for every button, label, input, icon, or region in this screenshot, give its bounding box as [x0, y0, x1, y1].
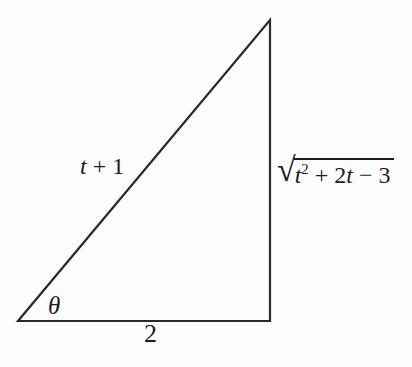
base-label: 2 — [144, 321, 157, 347]
angle-theta-label: θ — [48, 293, 60, 318]
figure-canvas: t + 1 √ t2 + 2t − 3 θ 2 — [0, 0, 412, 367]
hypotenuse-label: t + 1 — [80, 154, 124, 178]
vertical-side-label: √ t2 + 2t − 3 — [277, 153, 394, 187]
triangle-outline — [18, 20, 270, 321]
radicand-expression: t2 + 2t − 3 — [294, 158, 394, 187]
